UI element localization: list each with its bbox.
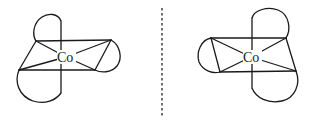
right-top-chelate-ring xyxy=(252,8,289,38)
right-bottom-edge xyxy=(220,71,296,72)
right-left-edge xyxy=(211,38,220,72)
right-right-edge xyxy=(286,38,296,71)
left-complex: Co xyxy=(17,14,120,102)
left-bottom-chelate-ring xyxy=(17,70,61,102)
right-left-chelate-ring xyxy=(198,38,220,73)
left-top-edge xyxy=(36,40,111,41)
left-top-chelate-ring xyxy=(34,14,61,41)
left-co-label: Co xyxy=(57,50,73,65)
right-co-label: Co xyxy=(243,50,259,65)
diagram-svg: Co Co xyxy=(0,0,311,124)
right-bottom-chelate-ring xyxy=(252,71,298,102)
enantiomer-diagram: Co Co xyxy=(0,0,311,124)
right-complex: Co xyxy=(198,8,298,101)
